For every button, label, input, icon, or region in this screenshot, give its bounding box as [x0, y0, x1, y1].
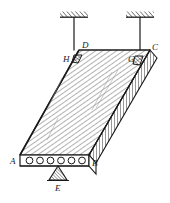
label-E: E	[54, 183, 61, 193]
hollow-core-void	[26, 157, 33, 164]
label-C: C	[152, 42, 159, 52]
label-H: H	[62, 54, 70, 64]
hollow-core-void	[37, 157, 44, 164]
hollow-core-void	[47, 157, 54, 164]
engineering-figure: D C H G A B E	[0, 0, 170, 203]
ceiling-hatch-left	[60, 12, 88, 18]
hollow-core-void	[58, 157, 65, 164]
label-G: G	[128, 54, 135, 64]
triangular-support-E	[47, 166, 69, 181]
slab-diagram-svg: D C H G A B E	[0, 0, 170, 203]
label-B: B	[92, 158, 98, 168]
label-A: A	[9, 156, 16, 166]
hollow-core-void	[68, 157, 75, 164]
ceiling-hatch-right	[126, 12, 154, 18]
hollow-core-void	[79, 157, 86, 164]
label-D: D	[81, 40, 89, 50]
